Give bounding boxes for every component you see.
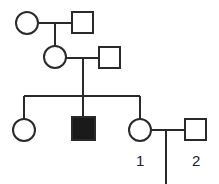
gen2-female xyxy=(44,46,66,68)
gen3-male-individual-2 xyxy=(185,119,206,140)
gen1-female xyxy=(16,12,38,34)
pedigree-chart xyxy=(0,0,219,184)
gen3-female-1 xyxy=(13,119,35,141)
gen3-female-individual-1 xyxy=(129,119,151,141)
gen1-male xyxy=(72,12,93,33)
label-individual-2: 2 xyxy=(192,152,200,169)
gen2-male xyxy=(99,47,120,68)
label-individual-1: 1 xyxy=(136,152,144,169)
gen3-affected-male xyxy=(72,117,95,140)
